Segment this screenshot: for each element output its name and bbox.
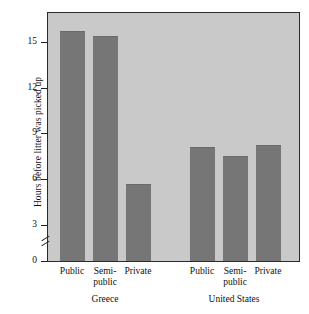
- bar-us-private: [256, 145, 281, 261]
- y-tick-mark-9: [41, 133, 48, 134]
- bar-chart: Hours before litter was picked up 15 12 …: [0, 0, 309, 314]
- y-tick-label-12: 12: [0, 83, 37, 93]
- axis-break-icon: [39, 235, 51, 248]
- x-label-us-private: Private: [240, 266, 296, 277]
- group-label-greece: Greece: [45, 294, 165, 304]
- y-tick-label-0: 0: [0, 256, 37, 266]
- group-label-united-states: United States: [174, 294, 294, 304]
- x-label-text: Private: [125, 266, 152, 276]
- bar-greece-private: [126, 184, 151, 261]
- y-tick-mark-3: [41, 225, 48, 226]
- y-tick-label-3: 3: [0, 220, 37, 230]
- bar-us-semi-public: [223, 156, 248, 261]
- bar-greece-semi-public: [93, 36, 118, 261]
- y-tick-mark-0: [41, 261, 48, 262]
- y-tick-label-15: 15: [0, 37, 37, 47]
- y-axis-title: Hours before litter was picked up: [33, 42, 43, 242]
- y-tick-mark-12: [41, 88, 48, 89]
- plot-area: [47, 12, 300, 262]
- x-label-text: Private: [255, 266, 282, 276]
- y-tick-label-9: 9: [0, 128, 37, 138]
- x-label-text-line2: public: [77, 277, 133, 288]
- bar-us-public: [190, 147, 215, 261]
- x-label-text-line2: public: [207, 277, 263, 288]
- y-tick-mark-6: [41, 179, 48, 180]
- y-tick-label-6: 6: [0, 174, 37, 184]
- x-label-greece-private: Private: [110, 266, 166, 277]
- bar-greece-public: [60, 31, 85, 261]
- y-tick-mark-15: [41, 42, 48, 43]
